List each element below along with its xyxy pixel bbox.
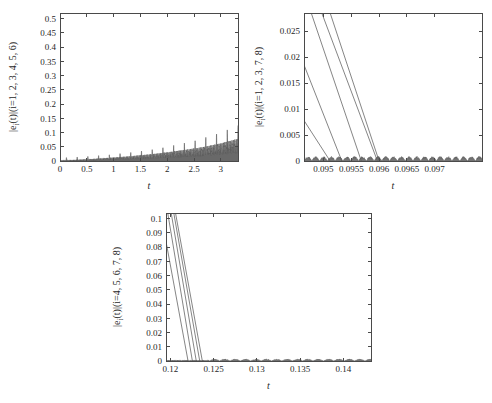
trace-line-e_4 [166,241,188,361]
x-tick-label: 0.5 [81,164,93,174]
x-tick-label: 0.125 [203,364,224,374]
x-tick-label: 3 [219,164,224,174]
y-tick-label: 0 [158,356,163,366]
y-tick-label: 0.005 [280,130,301,140]
y-axis: 00.0050.010.0150.020.025 [280,26,482,166]
chart-panel-3-svg: 0.120.1250.130.1350.1400.010.020.030.040… [104,200,389,403]
y-tick-label: 0.4 [45,42,57,52]
x-tick-label: 1 [111,164,116,174]
y-tick-label: 0.15 [40,114,56,124]
y-tick-label: 0.03 [146,314,162,324]
x-tick-label: 2.5 [188,164,200,174]
x-tick-label: 0.095 [313,164,334,174]
plot-data-area [166,207,371,361]
y-tick-label: 0.05 [40,142,56,152]
chart-panel-2-svg: 0.0950.09550.0960.09650.09700.0050.010.0… [248,0,492,200]
x-tick-label: 0.096 [369,164,390,174]
plot-data-area [304,7,482,161]
x-tick-label: 0 [58,164,63,174]
y-axis-label: |ei(t)|(i=1, 2, 3, 4, 5, 6) [7,42,21,132]
y-tick-label: 0.05 [146,285,162,295]
y-tick-label: 0.09 [146,228,162,238]
y-tick-label: 0.01 [284,104,300,114]
chart-panel-1: 00.511.522.5300.050.10.150.20.250.30.350… [0,0,248,200]
x-axis-label: t [267,380,270,391]
y-tick-label: 0.08 [146,242,162,252]
x-tick-label: 2 [165,164,170,174]
figure-container: 00.511.522.5300.050.10.150.20.250.30.350… [0,0,492,403]
x-axis-label: t [392,180,395,191]
y-tick-label: 0 [296,156,301,166]
y-axis-label: |ei(t)|(i=1, 2, 3, 7, 8) [253,47,267,127]
chart-panel-2: 0.0950.09550.0960.09650.09700.0050.010.0… [248,0,492,200]
y-tick-label: 0.1 [151,214,162,224]
y-tick-label: 0.35 [40,57,56,67]
x-tick-label: 0.135 [290,364,311,374]
y-tick-label: 0.015 [280,78,301,88]
trace-line-e_7 [173,207,200,361]
y-tick-label: 0.02 [146,328,162,338]
x-tick-label: 0.12 [162,364,178,374]
y-tick-label: 0.2 [45,99,56,109]
chart-panel-3: 0.120.1250.130.1350.1400.010.020.030.040… [104,200,389,403]
trace-line-e_1 [304,120,330,161]
trace-line-e_2 [304,65,342,161]
x-tick-label: 0.0955 [339,164,364,174]
y-tick-label: 0.06 [146,271,162,281]
plot-data-area [60,125,238,161]
plot-frame [166,213,371,361]
x-tick-label: 0.0965 [395,164,420,174]
y-axis-label: |ei(t)|(i=4, 5, 6, 7, 8) [111,247,125,327]
y-tick-label: 0 [52,156,57,166]
x-tick-label: 1.5 [135,164,147,174]
y-tick-label: 0.04 [146,299,162,309]
y-tick-label: 0.5 [45,14,57,24]
plot-frame [60,13,238,161]
y-tick-label: 0.3 [45,71,57,81]
x-tick-label: 0.13 [249,364,265,374]
plot-frame [304,13,482,161]
y-tick-label: 0.45 [40,28,56,38]
y-tick-label: 0.01 [146,342,162,352]
x-tick-label: 0.097 [425,164,446,174]
trace-envelope-outline [60,125,238,160]
trace-line-e_7 [320,7,378,161]
y-tick-label: 0.025 [280,26,301,36]
y-tick-label: 0.07 [146,257,162,267]
y-axis: 00.050.10.150.20.250.30.350.40.450.5 [40,14,238,166]
y-tick-label: 0.02 [284,52,300,62]
x-axis-label: t [148,180,151,191]
y-tick-label: 0.1 [45,128,56,138]
x-tick-label: 0.14 [335,364,351,374]
y-tick-label: 0.25 [40,85,56,95]
chart-panel-1-svg: 00.511.522.5300.050.10.150.20.250.30.350… [0,0,248,200]
x-axis: 0.0950.09550.0960.09650.097 [313,13,445,174]
